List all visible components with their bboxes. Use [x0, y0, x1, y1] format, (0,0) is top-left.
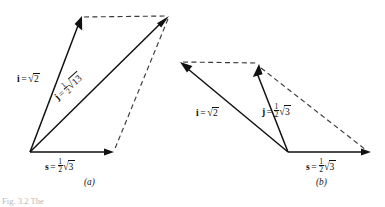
- panel-b-label-s-fraction: 12: [319, 158, 324, 173]
- radical-sign-icon: √: [63, 161, 69, 172]
- panel-b-label-s-fraction-numerator: 1: [319, 158, 324, 165]
- panel-a-label-s-fraction-numerator: 1: [58, 158, 63, 165]
- panel-a-dashed-top: [84, 16, 167, 17]
- panel-a-label-i: i=√2: [17, 73, 40, 85]
- panel-a-vector-j-shaft: [30, 21, 163, 152]
- panel-b-label-j-equals: =: [265, 106, 274, 117]
- radical-sign-icon: √: [279, 106, 285, 117]
- panel-a-label-s-radical: √3: [63, 160, 75, 172]
- panel-b-vector-s-arrowhead: [361, 148, 371, 155]
- panel-a-label-s-fraction-denominator: 2: [58, 165, 63, 173]
- panel-b-label-j-radical: √3: [279, 105, 291, 117]
- panel-b-label-j: j=12√3: [262, 103, 291, 118]
- panel-b-label-s: s=12√3: [306, 158, 336, 173]
- panel-a-label-s: s=12√3: [45, 158, 75, 173]
- radical-sign-icon: √: [28, 74, 34, 85]
- panel-b-label-s-radicand: 3: [329, 160, 336, 171]
- vector-diagram-svg: [0, 0, 385, 207]
- panel-a-caption: (a): [84, 177, 95, 187]
- panel-a-label-i-radicand: 2: [33, 73, 40, 84]
- panel-b-label-s-equals: =: [310, 161, 319, 172]
- panel-b-label-i-radical: √2: [207, 107, 219, 119]
- panel-a-label-s-radicand: 3: [68, 160, 75, 171]
- panel-a-label-s-equals: =: [49, 161, 58, 172]
- panel-b-label-s-fraction-denominator: 2: [319, 165, 324, 173]
- panel-b-label-j-radicand: 3: [284, 105, 291, 116]
- panel-b-label-s-radical: √3: [324, 160, 336, 172]
- radical-sign-icon: √: [324, 161, 330, 172]
- panel-b-label-i-radicand: 2: [212, 107, 219, 118]
- panel-b-dashed-top: [183, 62, 258, 63]
- panel-a-label-i-equals: =: [20, 73, 29, 84]
- panel-a-vector-s-arrowhead: [104, 148, 114, 155]
- panel-b-label-j-fraction: 12: [274, 103, 279, 118]
- panel-a-vector-i-arrowhead: [75, 16, 83, 31]
- panel-a-geometry: [30, 16, 169, 156]
- radical-sign-icon: √: [207, 108, 213, 119]
- panel-a-label-s-fraction: 12: [58, 158, 63, 173]
- panel-b-label-j-fraction-numerator: 1: [274, 103, 279, 110]
- panel-b-caption: (b): [316, 177, 327, 187]
- figure-root: i=√2 j=12√13 s=12√3 (a) i=√2 j=12√3 s=12…: [0, 0, 385, 207]
- panel-b-label-j-fraction-denominator: 2: [274, 110, 279, 118]
- panel-b-vector-j-arrowhead: [253, 64, 263, 77]
- panel-b-label-i: i=√2: [196, 107, 219, 119]
- panel-a-label-i-radical: √2: [28, 73, 40, 85]
- panel-a-dashed-right: [114, 19, 168, 151]
- figure-caption: Fig. 3.2 The: [2, 196, 252, 207]
- panel-b-label-i-equals: =: [199, 107, 208, 118]
